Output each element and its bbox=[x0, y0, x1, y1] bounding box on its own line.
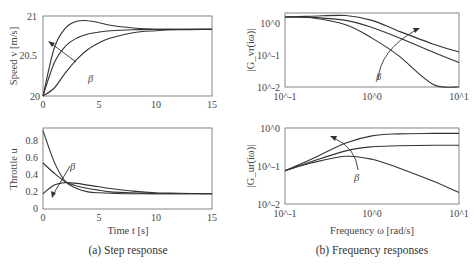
speed-plot: β 21 20.5 20 0 5 10 15 Speed v [m/s] bbox=[8, 11, 217, 110]
beta-label: β bbox=[69, 161, 76, 172]
y-axis-label: Speed v [m/s] bbox=[8, 27, 19, 85]
figure: β 21 20.5 20 0 5 10 15 Speed v [m/s] β 0… bbox=[0, 0, 475, 267]
ytick: 0.4 bbox=[26, 169, 39, 180]
caption-frequency-responses: (b) Frequency responses bbox=[316, 244, 429, 257]
xtick: 10 bbox=[151, 212, 161, 223]
arrowhead-icon bbox=[413, 28, 420, 33]
ytick: 10^-1 bbox=[257, 50, 280, 61]
curve-beta_high bbox=[285, 15, 459, 52]
plot-frame bbox=[285, 128, 459, 204]
xtick: 10^0 bbox=[362, 91, 382, 102]
ytick: 10^0 bbox=[260, 123, 280, 134]
xtick: 10^1 bbox=[449, 91, 469, 102]
ytick: 0.8 bbox=[26, 135, 39, 146]
ytick: 0 bbox=[33, 203, 38, 214]
arrowhead-icon bbox=[330, 136, 337, 141]
xtick: 0 bbox=[41, 99, 46, 110]
x-axis-label: Time t [s] bbox=[107, 225, 148, 236]
arrowhead-icon bbox=[51, 191, 56, 198]
curve-beta_mid bbox=[43, 29, 212, 96]
gvr-plot: β 10^0 10^-1 10^-2 10^-1 10^0 10^1 |G_vr… bbox=[245, 13, 469, 102]
xtick: 10 bbox=[151, 99, 161, 110]
arrowhead-icon bbox=[48, 41, 55, 47]
plot-frame bbox=[285, 13, 459, 87]
y-axis-label: |G_vr(iω)| bbox=[245, 29, 257, 72]
xtick: 15 bbox=[207, 99, 217, 110]
y-axis-label: Throttle u bbox=[8, 147, 19, 189]
caption-step-response: (a) Step response bbox=[88, 244, 167, 257]
curve-beta_mid bbox=[43, 163, 212, 194]
throttle-plot: β 0 0.2 0.4 0.6 0.8 0 5 10 15 Throttle u… bbox=[8, 128, 217, 236]
curve-beta_high bbox=[43, 131, 212, 194]
ytick: 10^0 bbox=[260, 18, 280, 29]
ytick: 10^-1 bbox=[257, 161, 280, 172]
xtick: 10^-1 bbox=[273, 208, 296, 219]
curve-beta_low bbox=[43, 29, 212, 96]
ytick: 0.6 bbox=[26, 152, 39, 163]
ytick: 20 bbox=[30, 91, 40, 102]
xtick: 5 bbox=[97, 212, 102, 223]
xtick: 10^0 bbox=[362, 208, 382, 219]
xtick: 15 bbox=[207, 212, 217, 223]
curve-beta_high bbox=[43, 20, 212, 96]
beta-label: β bbox=[87, 73, 94, 84]
curve-beta_mid bbox=[285, 17, 459, 63]
xtick: 5 bbox=[97, 99, 102, 110]
ytick: 21 bbox=[27, 11, 37, 22]
beta-arrow-icon bbox=[54, 166, 70, 193]
curve-beta_high bbox=[285, 133, 459, 170]
ytick: 0.2 bbox=[26, 186, 39, 197]
y-axis-label: |G_ur(iω)| bbox=[245, 145, 257, 188]
beta-label: β bbox=[375, 71, 382, 82]
curve-beta_mid bbox=[285, 145, 459, 170]
beta-label: β bbox=[353, 172, 360, 183]
xtick: 10^1 bbox=[449, 208, 469, 219]
gur-plot: β 10^0 10^-1 10^-2 10^-1 10^0 10^1 |G_ur… bbox=[245, 123, 469, 236]
xtick: 0 bbox=[41, 212, 46, 223]
x-axis-label: Frequency ω [rad/s] bbox=[330, 225, 414, 236]
ytick: 20.5 bbox=[20, 50, 38, 61]
xtick: 10^-1 bbox=[273, 91, 296, 102]
